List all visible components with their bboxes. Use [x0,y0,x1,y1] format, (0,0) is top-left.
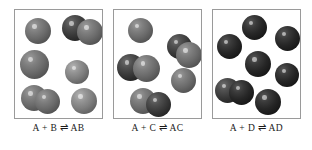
sphere-a-1 [128,18,153,43]
sphere-ac-2b [133,55,160,82]
sphere-ad-1b [229,80,254,105]
caption-ab: A + B ⇌ AB [32,124,84,134]
caption-ac: A + C ⇌ AC [131,124,183,134]
panel-group-ac: A + C ⇌ AC [113,9,202,134]
sphere-ac-3b [146,92,171,117]
sphere-d-2 [245,51,271,77]
sphere-d-1 [275,26,300,51]
equilibrium-figure: A + B ⇌ AB A + C ⇌ AC A + D ⇌ AD [0,0,312,150]
sphere-a-4 [71,88,97,114]
sphere-d-3 [275,63,299,87]
panel-box-ac [113,9,202,119]
panel-group-ad: A + D ⇌ AD [212,9,301,134]
sphere-a-2 [171,68,196,93]
sphere-ab-1b [77,19,103,45]
panel-group-ab: A + B ⇌ AB [14,9,103,134]
panel-box-ab [14,9,103,119]
panel-box-ad [212,9,301,119]
sphere-a-2 [20,50,49,79]
sphere-a-2 [217,34,242,59]
sphere-a-1 [242,15,267,40]
sphere-ac-1b [176,42,202,68]
sphere-a-1 [25,18,51,44]
sphere-a-3 [65,60,89,84]
sphere-ab-2b [35,89,60,114]
caption-ad: A + D ⇌ AD [230,124,283,134]
sphere-d-4 [255,89,281,115]
